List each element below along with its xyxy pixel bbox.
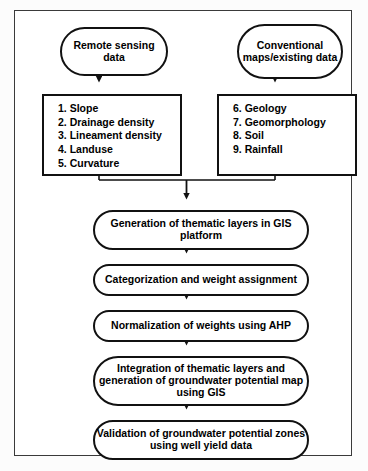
parameter-list-remote-sensing: 1. Slope 2. Drainage density 3. Lineamen… (58, 102, 162, 170)
flowchart-figure: Remote sensing data Conventional maps/ex… (0, 0, 368, 471)
source-node-conventional: Conventional maps/existing data (237, 24, 343, 79)
parameter-list-conventional: 6. Geology 7. Geomorphology 8. Soil 9. R… (233, 102, 326, 157)
process-node-categorization: Categorization and weight assignment (93, 264, 309, 296)
process-node-integration-label: Integration of thematic layers and gener… (95, 363, 307, 398)
list-item: 2. Drainage density (58, 116, 162, 130)
list-item: 1. Slope (58, 102, 162, 116)
source-node-conventional-label: Conventional maps/existing data (239, 40, 341, 64)
process-node-normalization-label: Normalization of weights using AHP (111, 320, 291, 332)
process-node-normalization: Normalization of weights using AHP (93, 310, 309, 342)
parameter-box-remote-sensing: 1. Slope 2. Drainage density 3. Lineamen… (42, 94, 182, 176)
list-item: 7. Geomorphology (233, 116, 326, 130)
list-item: 4. Landuse (58, 143, 162, 157)
process-node-generation: Generation of thematic layers in GIS pla… (93, 210, 309, 250)
process-node-validation: Validation of groundwater potential zone… (93, 420, 309, 460)
process-node-integration: Integration of thematic layers and gener… (93, 356, 309, 406)
process-node-generation-label: Generation of thematic layers in GIS pla… (95, 218, 307, 242)
list-item: 3. Lineament density (58, 129, 162, 143)
source-node-remote-sensing-label: Remote sensing data (62, 40, 166, 64)
diagram-frame: Remote sensing data Conventional maps/ex… (14, 10, 352, 456)
source-node-remote-sensing: Remote sensing data (60, 27, 168, 76)
parameter-box-conventional: 6. Geology 7. Geomorphology 8. Soil 9. R… (217, 94, 357, 176)
process-node-validation-label: Validation of groundwater potential zone… (95, 428, 307, 452)
list-item: 6. Geology (233, 102, 326, 116)
list-item: 8. Soil (233, 129, 326, 143)
process-node-categorization-label: Categorization and weight assignment (105, 274, 297, 286)
list-item: 5. Curvature (58, 157, 162, 171)
list-item: 9. Rainfall (233, 143, 326, 157)
